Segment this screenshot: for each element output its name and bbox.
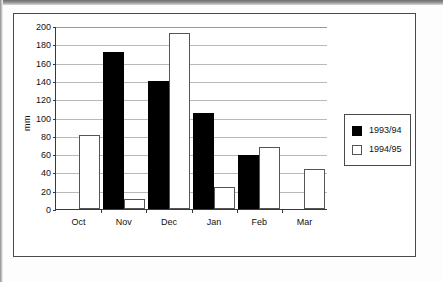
y-axis-tick-label: 100 (36, 114, 51, 123)
bar-mar-1994-95 (304, 169, 325, 209)
y-axis-tick-label: 180 (36, 41, 51, 50)
bar-dec-1993-94 (148, 81, 169, 209)
bar-jan-1993-94 (193, 113, 214, 209)
x-axis-label-dec: Dec (161, 218, 177, 227)
legend-item-1993-94: 1993/94 (352, 121, 402, 140)
legend-item-1994-95: 1994/95 (352, 140, 402, 159)
bar-group-nov: Nov (101, 27, 146, 209)
y-axis-tick-label: 80 (41, 132, 51, 141)
x-axis-label-mar: Mar (297, 218, 313, 227)
bar-group-feb: Feb (237, 27, 282, 209)
y-axis-tick-label: 40 (41, 169, 51, 178)
y-axis-tick-label: 60 (41, 151, 51, 160)
bar-dec-1994-95 (169, 33, 190, 209)
bar-jan-1994-95 (214, 187, 235, 209)
scan-edge-left (0, 0, 3, 282)
scanned-page: mm 020406080100120140160180200 OctNovDec… (0, 0, 443, 282)
legend-swatch-icon (352, 126, 362, 136)
y-axis-tick-label: 20 (41, 187, 51, 196)
legend-swatch-icon (352, 145, 362, 155)
x-axis-label-jan: Jan (207, 218, 222, 227)
x-axis-label-oct: Oct (72, 218, 86, 227)
bar-group-mar: Mar (282, 27, 327, 209)
bar-groups: OctNovDecJanFebMar (56, 27, 327, 209)
y-axis-tick-label: 0 (46, 206, 51, 215)
bar-nov-1994-95 (124, 199, 145, 209)
bar-group-dec: Dec (146, 27, 191, 209)
chart-figure-frame: mm 020406080100120140160180200 OctNovDec… (13, 13, 416, 257)
x-axis-label-nov: Nov (116, 218, 132, 227)
x-axis-label-feb: Feb (252, 218, 268, 227)
bar-group-jan: Jan (192, 27, 237, 209)
chart-legend: 1993/941994/95 (344, 114, 411, 166)
y-axis-tick-label: 120 (36, 96, 51, 105)
legend-label: 1994/95 (369, 145, 402, 154)
bar-nov-1993-94 (103, 52, 124, 209)
y-axis-tick-label: 200 (36, 23, 51, 32)
y-axis-tick-label: 160 (36, 59, 51, 68)
y-axis-title: mm (22, 115, 32, 131)
y-axis-tick-label: 140 (36, 77, 51, 86)
bar-group-oct: Oct (56, 27, 101, 209)
bar-feb-1993-94 (238, 155, 259, 209)
bar-oct-1994-95 (79, 135, 100, 209)
bar-feb-1994-95 (259, 147, 280, 209)
plot-area: 020406080100120140160180200 OctNovDecJan… (55, 27, 327, 210)
scan-edge-top (0, 0, 443, 5)
legend-label: 1993/94 (369, 126, 402, 135)
